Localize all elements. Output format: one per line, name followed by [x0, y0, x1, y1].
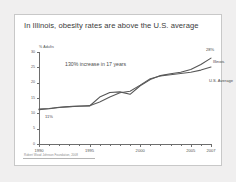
x-tick-label: 2007	[201, 148, 221, 153]
x-minor-tick	[79, 144, 80, 146]
y-tick-label: 30	[26, 50, 35, 54]
y-tick-label: 15	[26, 96, 35, 100]
page-title: In Illinois, obesity rates are above the…	[24, 21, 210, 32]
y-tick-label: 20	[26, 80, 35, 84]
x-minor-tick	[181, 144, 182, 146]
annotation-increase: 130% increase in 17 years	[65, 61, 126, 67]
series-label-illinois: Illinois	[213, 59, 224, 64]
series-label-us-average: U.S. Average	[209, 78, 233, 83]
y-axis-label: % Adults	[39, 45, 54, 49]
x-minor-tick	[49, 144, 50, 146]
x-minor-tick	[160, 144, 161, 146]
x-minor-tick	[100, 144, 101, 146]
x-tick-label: 1990	[29, 148, 49, 153]
slide-card: In Illinois, obesity rates are above the…	[14, 14, 222, 166]
slide-page: In Illinois, obesity rates are above the…	[0, 0, 236, 182]
x-tick-label: 1995	[80, 148, 100, 153]
y-tick-label: 0	[26, 142, 35, 146]
source-footnote: Robert Wood Johnson Foundation, 2008	[24, 153, 78, 157]
x-minor-tick	[171, 144, 172, 146]
data-label-start: 11%	[45, 114, 53, 119]
x-tick-label: 2005	[181, 148, 201, 153]
y-tick-label: 25	[26, 65, 35, 69]
chart-plot-area: 051015202530 19901995200020052007 130% i…	[39, 52, 211, 144]
x-axis-line	[39, 144, 211, 145]
x-minor-tick	[150, 144, 151, 146]
x-minor-tick	[59, 144, 60, 146]
x-tick-label: 2000	[130, 148, 150, 153]
footnote-rule	[23, 158, 95, 159]
x-minor-tick	[130, 144, 131, 146]
x-minor-tick	[120, 144, 121, 146]
y-tick-label: 10	[26, 111, 35, 115]
series-line-u-s-average	[39, 67, 211, 110]
x-minor-tick	[110, 144, 111, 146]
y-tick-label: 5	[26, 126, 35, 130]
x-minor-tick	[201, 144, 202, 146]
x-minor-tick	[69, 144, 70, 146]
data-label-end: 28%	[206, 47, 214, 52]
